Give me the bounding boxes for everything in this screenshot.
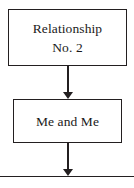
flowchart-node-next-cropped[interactable] [0,176,134,188]
node-label-line-1: Me and Me [36,112,99,131]
connector-shaft [67,143,69,170]
arrowhead-down-icon [63,169,73,176]
flowchart-connector-me-and-me-to-next [61,143,75,177]
connector-shaft [67,66,69,93]
node-label-line-2: No. 2 [52,38,83,57]
arrowhead-down-icon [63,92,73,99]
flowchart-node-relationship[interactable]: Relationship No. 2 [8,9,127,66]
flowchart-connector-relationship-to-me-and-me [61,66,75,100]
node-label-line-1: Relationship [33,19,102,38]
flowchart-node-me-and-me[interactable]: Me and Me [13,99,122,143]
flowchart-diagram: Relationship No. 2 Me and Me [0,0,134,188]
